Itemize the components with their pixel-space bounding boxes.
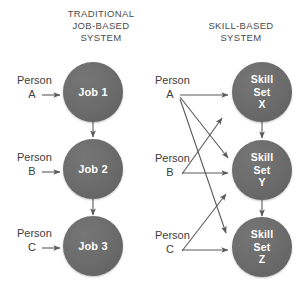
node-job-1-label: Job 1 [78,86,108,99]
node-skill-set-y-line2: Set [254,164,271,177]
node-job-3[interactable]: Job 3 [63,216,123,276]
panel-title-skill: SKILL-BASED SYSTEM [176,20,306,44]
arrow-personA-skilly [180,97,228,158]
panel-title-traditional-line2: JOB-BASED [36,20,166,32]
person-letter-b-traditional: B [17,165,47,178]
node-skill-set-x-line2: Set [254,86,271,99]
panel-title-traditional-line1: TRADITIONAL [36,8,166,20]
person-letter-a-skill: A [155,88,185,101]
node-skill-set-x[interactable]: Skill Set X [232,62,292,122]
person-name-b-traditional: Person [17,151,52,164]
person-name-c-skill: Person [155,229,190,242]
person-letter-c-skill: C [155,243,185,256]
person-label-a-skill: Person A [155,74,190,101]
person-label-c-skill: Person C [155,229,190,256]
person-letter-b-skill: B [155,166,185,179]
node-skill-set-z-line1: Skill [251,228,274,241]
node-job-1[interactable]: Job 1 [63,62,123,122]
panel-title-skill-line2: SYSTEM [176,32,306,44]
node-skill-set-z[interactable]: Skill Set Z [232,217,292,277]
panel-title-traditional: TRADITIONAL JOB-BASED SYSTEM [36,8,166,45]
diagram-canvas: TRADITIONAL JOB-BASED SYSTEM SKILL-BASED… [0,0,307,284]
person-letter-c-traditional: C [17,241,47,254]
person-name-b-skill: Person [155,152,190,165]
person-letter-a-traditional: A [17,88,47,101]
person-label-b-traditional: Person B [17,151,52,178]
person-name-c-traditional: Person [17,227,52,240]
node-skill-set-y[interactable]: Skill Set Y [232,140,292,200]
node-skill-set-z-line3: Z [259,253,266,266]
node-skill-set-x-line3: X [258,98,265,111]
node-job-2[interactable]: Job 2 [63,139,123,199]
node-skill-set-z-line2: Set [254,241,271,254]
node-skill-set-x-line1: Skill [251,73,274,86]
person-name-a-traditional: Person [17,74,52,87]
panel-title-traditional-line3: SYSTEM [36,32,166,44]
node-skill-set-y-line3: Y [258,176,265,189]
person-label-c-traditional: Person C [17,227,52,254]
node-job-2-label: Job 2 [78,163,108,176]
panel-title-skill-line1: SKILL-BASED [176,20,306,32]
node-skill-set-y-line1: Skill [251,151,274,164]
person-label-b-skill: Person B [155,152,190,179]
person-name-a-skill: Person [155,74,190,87]
person-label-a-traditional: Person A [17,74,52,101]
node-job-3-label: Job 3 [78,240,108,253]
